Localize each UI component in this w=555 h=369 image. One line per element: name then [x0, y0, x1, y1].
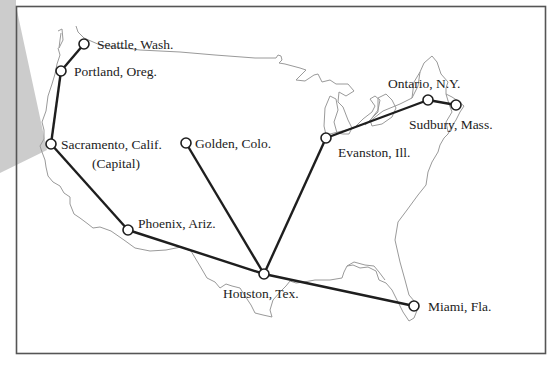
route-phoenix-houston	[128, 230, 264, 274]
us-network-map: Seattle, Wash.Portland, Oreg.Sacramento,…	[0, 0, 555, 369]
city-node-phoenix	[123, 225, 133, 235]
city-label-sacramento: Sacramento, Calif.	[61, 137, 162, 152]
city-node-ontario	[423, 95, 433, 105]
city-node-miami	[409, 301, 419, 311]
city-node-houston	[259, 269, 269, 279]
city-label-portland: Portland, Oreg.	[74, 64, 157, 79]
map-canvas: Seattle, Wash.Portland, Oreg.Sacramento,…	[0, 0, 555, 369]
city-label-houston: Houston, Tex.	[223, 286, 299, 301]
city-node-sudbury	[451, 100, 461, 110]
city-label-sudbury: Sudbury, Mass.	[409, 117, 493, 132]
route-golden-houston	[186, 143, 264, 274]
city-label-seattle: Seattle, Wash.	[97, 37, 173, 52]
route-houston-evanston	[264, 138, 326, 274]
city-sublabel-sacramento: (Capital)	[92, 156, 140, 171]
city-label-evanston: Evanston, Ill.	[338, 145, 410, 160]
city-label-miami: Miami, Fla.	[428, 299, 491, 314]
city-label-ontario: Ontario, N.Y.	[388, 76, 461, 91]
city-node-golden	[181, 138, 191, 148]
city-label-golden: Golden, Colo.	[195, 136, 271, 151]
city-label-phoenix: Phoenix, Ariz.	[138, 216, 216, 231]
city-node-portland	[56, 66, 66, 76]
city-node-sacramento	[46, 139, 56, 149]
city-node-evanston	[321, 133, 331, 143]
city-node-seattle	[79, 39, 89, 49]
